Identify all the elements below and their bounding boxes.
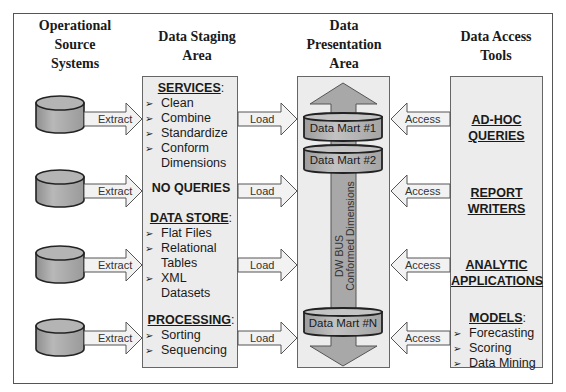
- extract-arrow-icon: Extract: [84, 322, 142, 354]
- diagram-graphics: Extract Extract Extract Extract Load Loa…: [0, 0, 566, 392]
- extract-arrow-icon: Extract: [84, 175, 142, 207]
- svg-text:Extract: Extract: [98, 185, 132, 197]
- svg-text:Load: Load: [250, 332, 274, 344]
- svg-text:Data Mart #N: Data Mart #N: [309, 317, 377, 329]
- svg-text:Data Mart #1: Data Mart #1: [310, 122, 376, 134]
- data-mart-n-icon: Data Mart #N: [304, 308, 382, 336]
- svg-text:Access: Access: [405, 113, 441, 125]
- access-arrow-icon: Access: [391, 322, 450, 354]
- svg-text:Access: Access: [405, 332, 441, 344]
- svg-text:Extract: Extract: [98, 332, 132, 344]
- svg-text:Data Mart #2: Data Mart #2: [310, 154, 376, 166]
- extract-arrow-icon: Extract: [84, 249, 142, 281]
- source-database-icon: [36, 170, 84, 207]
- access-arrow-icon: Access: [391, 249, 450, 281]
- source-database-icon: [36, 96, 84, 133]
- svg-text:Extract: Extract: [98, 259, 132, 271]
- svg-text:Conformed Dimensions: Conformed Dimensions: [344, 181, 356, 291]
- svg-text:Load: Load: [250, 185, 274, 197]
- access-arrow-icon: Access: [391, 175, 450, 207]
- load-arrow-icon: Load: [238, 175, 297, 207]
- source-database-icon: [36, 319, 84, 356]
- load-arrow-icon: Load: [238, 249, 297, 281]
- data-mart-1-icon: Data Mart #1: [304, 113, 382, 141]
- extract-arrow-icon: Extract: [84, 103, 142, 135]
- load-arrow-icon: Load: [238, 103, 297, 135]
- svg-text:Access: Access: [405, 185, 441, 197]
- svg-text:Load: Load: [250, 259, 274, 271]
- source-database-icon: [36, 246, 84, 283]
- access-arrow-icon: Access: [391, 103, 450, 135]
- svg-text:Load: Load: [250, 113, 274, 125]
- svg-text:Access: Access: [405, 259, 441, 271]
- data-mart-2-icon: Data Mart #2: [304, 145, 382, 173]
- svg-text:Extract: Extract: [98, 113, 132, 125]
- load-arrow-icon: Load: [238, 322, 297, 354]
